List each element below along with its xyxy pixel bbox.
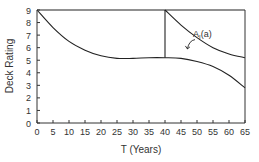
x-tick-label: 25 [112, 127, 122, 137]
y-tick-label: 6 [26, 43, 31, 53]
x-tick-label: 5 [50, 127, 55, 137]
y-tick-label: 8 [26, 18, 31, 28]
y-tick-label: 4 [26, 68, 31, 78]
y-tick-label: 0 [26, 119, 31, 129]
annotation-label: AI(a) [193, 29, 212, 40]
y-tick-label: 2 [26, 93, 31, 103]
series-line-0 [37, 10, 245, 88]
x-tick-label: 40 [160, 127, 170, 137]
plot-area [37, 10, 245, 88]
x-tick-label: 0 [34, 127, 39, 137]
x-tick-label: 15 [80, 127, 90, 137]
deck-rating-chart: 051015202530354045505560650123456789 Dec… [0, 0, 259, 162]
x-tick-label: 10 [64, 127, 74, 137]
x-tick-label: 65 [240, 127, 250, 137]
y-axis-label: Deck Rating [4, 39, 15, 93]
x-tick-label: 45 [176, 127, 186, 137]
y-tick-label: 5 [26, 56, 31, 66]
x-axis-label: T (Years) [121, 144, 162, 155]
y-tick-label: 3 [26, 81, 31, 91]
y-tick-label: 1 [26, 106, 31, 116]
x-tick-label: 55 [208, 127, 218, 137]
x-tick-label: 60 [224, 127, 234, 137]
y-tick-label: 7 [26, 31, 31, 41]
x-tick-label: 35 [144, 127, 154, 137]
x-tick-label: 50 [192, 127, 202, 137]
x-tick-label: 20 [96, 127, 106, 137]
x-tick-label: 30 [128, 127, 138, 137]
axes: 051015202530354045505560650123456789 [26, 6, 250, 138]
y-tick-label: 9 [26, 6, 31, 16]
